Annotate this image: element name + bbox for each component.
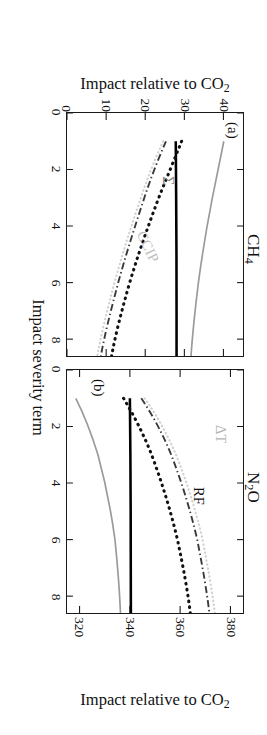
- panel-b-ytick-320: 320: [71, 617, 87, 651]
- curve-rf-a: [176, 141, 177, 356]
- species-label-ch4-text: CH: [244, 234, 263, 258]
- panel-b-ytick-380: 380: [223, 617, 239, 651]
- curve-sigma-b: [76, 398, 121, 613]
- species-label-n2o: N2O: [241, 472, 263, 503]
- panel-a-xtick-6: 6: [48, 268, 64, 298]
- panel-b-xticks: [67, 370, 243, 596]
- panel-a-ch4: [66, 112, 244, 357]
- curve-gtp-b: [145, 398, 215, 613]
- panel-a-tag: (a): [224, 122, 241, 139]
- curve-label-delta-t: ΔT: [212, 425, 229, 444]
- panel-a-xtick-4: 4: [48, 211, 64, 241]
- panel-a-xtick-2: 2: [48, 154, 64, 184]
- curve-label-sigma: Σ: [159, 176, 177, 186]
- panel-a-y-axis-title-sub: 2: [224, 81, 230, 95]
- panel-b-n2o: [66, 369, 244, 614]
- figure-stage: (a) (b) Σ CCIP RF ΔT 0 2 4 6 8 0 2 4 6 8…: [0, 0, 267, 735]
- panel-b-xtick-2: 2: [48, 411, 64, 441]
- panel-a-y-axis-title: Impact relative to CO2: [66, 74, 244, 96]
- species-label-n2o-text: N: [244, 472, 263, 484]
- panel-b-yticks: [80, 370, 231, 613]
- curve-dt-b: [141, 398, 209, 613]
- panel-b-plot: [67, 370, 243, 613]
- panel-b-xtick-0: 0: [48, 354, 64, 384]
- curve-sigma-a: [191, 141, 224, 356]
- species-label-ch4: CH4: [241, 234, 263, 264]
- panel-b-y-axis-title: Impact relative to CO2: [66, 690, 244, 712]
- x-axis-title: Impact severity term: [28, 0, 48, 735]
- panel-b-y-axis-title-sub: 2: [224, 697, 230, 711]
- panel-b-y-axis-title-text: Impact relative to CO: [80, 690, 223, 709]
- panel-b-xtick-4: 4: [48, 468, 64, 498]
- species-label-ch4-sub: 4: [242, 258, 256, 264]
- panel-a-y-axis-title-text: Impact relative to CO: [80, 74, 223, 93]
- panel-a-xticks: [67, 113, 243, 339]
- panel-b-xtick-6: 6: [48, 525, 64, 555]
- species-label-n2o-tail: O: [244, 490, 263, 502]
- panel-a-xtick-8: 8: [48, 325, 64, 355]
- curve-ccip-b: [124, 398, 191, 613]
- figure: (a) (b) Σ CCIP RF ΔT 0 2 4 6 8 0 2 4 6 8…: [0, 0, 267, 735]
- panel-b-xtick-8: 8: [48, 582, 64, 612]
- panel-a-plot: [67, 113, 243, 356]
- curve-label-rf: RF: [190, 487, 207, 505]
- panel-b-tag: (b): [90, 379, 107, 397]
- curve-rf-b: [130, 398, 131, 613]
- panel-b-ytick-360: 360: [172, 617, 188, 651]
- panel-b-ytick-340: 340: [122, 617, 138, 651]
